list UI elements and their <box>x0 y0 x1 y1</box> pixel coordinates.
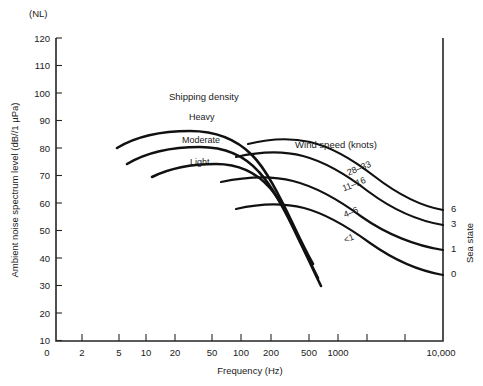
corner-label: (NL) <box>29 8 47 19</box>
svg-text:5: 5 <box>116 347 121 358</box>
svg-text:90: 90 <box>39 115 50 126</box>
svg-text:100: 100 <box>233 347 249 358</box>
curve-moderate <box>127 147 318 278</box>
y-tick-90: 90 <box>39 115 62 126</box>
x-tick-20: 20 <box>170 334 181 358</box>
label-wind-28-33: 28–33 <box>345 159 372 178</box>
svg-text:120: 120 <box>34 33 50 44</box>
chart-svg: (NL) 120 110 100 90 80 70 60 50 40 30 20… <box>0 0 483 386</box>
x-axis-ticks: 0 2 5 10 20 50 100 200 500 1000 10,000 <box>44 334 455 358</box>
svg-text:50: 50 <box>207 347 218 358</box>
y-tick-70: 70 <box>39 170 62 181</box>
y-axis-title: Ambient noise spectrum level (dB//1 µPa) <box>9 103 20 278</box>
ambient-noise-chart: (NL) 120 110 100 90 80 70 60 50 40 30 20… <box>0 0 483 386</box>
curve-wind-11-16 <box>236 152 443 225</box>
svg-text:500: 500 <box>301 347 317 358</box>
label-heavy: Heavy <box>189 112 215 122</box>
x-tick-10000: 10,000 <box>426 347 455 358</box>
y-tick-80: 80 <box>39 143 62 154</box>
x-tick-100: 100 <box>233 334 249 358</box>
label-wind-11-16: 11–16 <box>341 175 367 193</box>
x-tick-1000: 1000 <box>327 334 348 358</box>
svg-text:10,000: 10,000 <box>426 347 455 358</box>
svg-text:60: 60 <box>39 198 50 209</box>
label-wind-lt1: <1 <box>342 232 355 245</box>
x-tick-2: 2 <box>79 334 84 358</box>
svg-text:40: 40 <box>39 253 50 264</box>
sea-state-label-3: 3 <box>451 218 456 229</box>
svg-text:70: 70 <box>39 170 50 181</box>
svg-text:0: 0 <box>44 347 49 358</box>
y-tick-100: 100 <box>34 88 62 99</box>
wind-speed-heading: Wind speed (knots) <box>295 139 377 150</box>
svg-text:20: 20 <box>170 347 181 358</box>
curve-wind-4-6 <box>221 177 443 250</box>
y-tick-30: 30 <box>39 280 62 291</box>
y-tick-120: 120 <box>34 33 62 44</box>
curve-wind-lt1 <box>236 204 443 275</box>
y-tick-20: 20 <box>39 308 62 319</box>
svg-text:110: 110 <box>35 60 50 71</box>
wind-speed-curves <box>221 139 443 275</box>
svg-text:80: 80 <box>39 143 50 154</box>
svg-text:100: 100 <box>34 88 50 99</box>
svg-text:1000: 1000 <box>327 347 348 358</box>
sea-state-ticks: 6 3 1 0 <box>451 203 456 279</box>
x-tick-10: 10 <box>141 334 152 358</box>
svg-text:30: 30 <box>39 280 50 291</box>
y-axis-ticks: 120 110 100 90 80 70 60 50 40 30 20 10 <box>34 33 62 347</box>
x-tick-5: 5 <box>116 334 121 358</box>
shipping-density-annotations: Shipping density Heavy Moderate Light <box>169 91 239 167</box>
label-wind-4-6: 4–6 <box>342 205 360 220</box>
y-tick-10: 10 <box>39 335 62 346</box>
svg-text:10: 10 <box>39 335 50 346</box>
y-tick-40: 40 <box>39 253 62 264</box>
x-tick-200: 200 <box>263 334 279 358</box>
y-tick-50: 50 <box>39 225 62 236</box>
sea-state-label-0: 0 <box>451 268 456 279</box>
x-tick-500: 500 <box>301 334 317 358</box>
wind-speed-annotations: Wind speed (knots) 28–33 11–16 4–6 <1 <box>295 139 377 245</box>
x-axis-title: Frequency (Hz) <box>217 365 282 376</box>
right-axis-title: Sea state <box>464 223 475 263</box>
x-tick-50: 50 <box>207 334 218 358</box>
sea-state-label-1: 1 <box>451 243 456 254</box>
svg-text:50: 50 <box>39 225 50 236</box>
label-light: Light <box>190 157 210 167</box>
svg-text:200: 200 <box>263 347 279 358</box>
curve-heavy <box>117 131 313 264</box>
plot-frame <box>56 38 443 341</box>
y-tick-60: 60 <box>39 198 62 209</box>
label-moderate: Moderate <box>182 135 220 145</box>
sea-state-label-6: 6 <box>451 203 456 214</box>
svg-text:10: 10 <box>141 347 152 358</box>
y-tick-110: 110 <box>35 60 62 71</box>
axis-border <box>56 38 443 341</box>
svg-text:20: 20 <box>39 308 50 319</box>
x-tick-0: 0 <box>44 347 49 358</box>
svg-text:2: 2 <box>79 347 84 358</box>
shipping-density-heading: Shipping density <box>169 91 239 102</box>
